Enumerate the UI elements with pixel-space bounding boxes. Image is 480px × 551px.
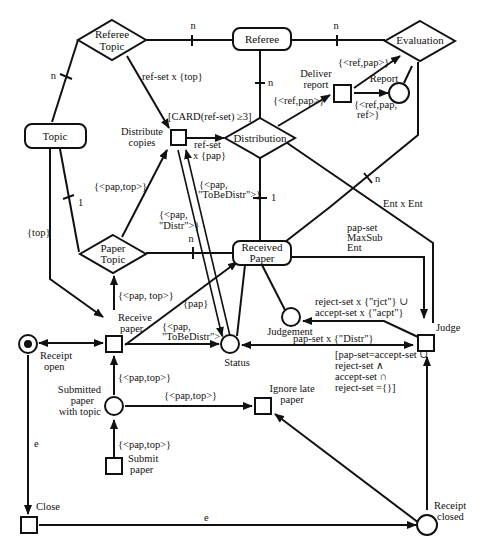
arc-label: Ent (347, 242, 362, 253)
node-label: Receive (118, 312, 152, 323)
transition-ignore-late-paper[interactable]: Ignore late paper (255, 383, 315, 414)
node-label: Report (370, 73, 399, 84)
arc-label: ref-set (194, 139, 221, 150)
edge-received-status (237, 265, 245, 336)
square-shape (334, 85, 351, 102)
place-status[interactable]: Status (221, 335, 250, 368)
edge-received-judgement (262, 265, 285, 310)
arc-label: {<pap,top>} (94, 181, 147, 192)
node-label: Referee (95, 28, 129, 40)
node-label: Distribute (121, 126, 163, 137)
token-icon (24, 340, 32, 348)
square-shape (21, 517, 37, 533)
arc-label: Ent x Ent (383, 198, 423, 209)
cardinality-label: n (51, 70, 57, 81)
node-label: Close (36, 501, 60, 512)
node-label: Receipt (434, 500, 466, 511)
node-label: Submit (128, 453, 158, 464)
relationship-distribution[interactable]: Distribution (225, 118, 295, 158)
cardinality-label: n (190, 20, 196, 31)
node-label: copies (129, 137, 156, 148)
circle-shape (105, 397, 123, 415)
transition-close[interactable]: Close (21, 501, 60, 533)
square-shape (255, 398, 271, 414)
guard-label: reject-set ∧ (335, 360, 384, 371)
relationship-paper-topic[interactable]: Paper Topic (80, 235, 146, 273)
edge-refereetopic-topic (52, 40, 78, 122)
edge-closed-ignore (275, 414, 419, 523)
edge-topic-papertopic (60, 149, 79, 252)
node-label: Judge (436, 322, 461, 333)
arc-label: x {pap} (193, 150, 226, 161)
node-label: Referee (245, 33, 279, 45)
node-label: Evaluation (396, 34, 444, 46)
edge-refereetopic-distribute (127, 56, 169, 128)
arc-label: e (204, 512, 209, 523)
cardinality-label: 1 (271, 192, 276, 203)
arc-label: {<pap,top>} (118, 372, 171, 383)
node-label: paper (71, 395, 95, 406)
node-label: Topic (43, 130, 68, 142)
cardinality-label: 1 (78, 197, 83, 208)
node-label: Topic (100, 40, 125, 52)
cardinality-label: n (268, 77, 274, 88)
square-shape (106, 458, 122, 474)
guard-label: accept-set ∩ (335, 371, 387, 382)
arc-label: {top} (27, 227, 51, 238)
arc-label: "Distr">} (159, 220, 200, 231)
node-label: Distribution (233, 132, 287, 144)
guard-label: [CARD(ref-set) ≥3] (168, 111, 252, 123)
circle-shape (417, 515, 437, 535)
edge-report-evaluation (404, 66, 412, 83)
arc-label: "ToBeDistr">} (162, 331, 225, 342)
arc-label: ref>} (357, 109, 380, 120)
node-label: Status (224, 357, 250, 368)
entity-topic[interactable]: Topic (25, 124, 86, 148)
arc-label: "ToBeDistr">} (198, 189, 261, 200)
arc-label: {<ref,pap>} (338, 57, 389, 68)
node-label: with topic (59, 406, 102, 417)
arc-label: {<pap, top>} (118, 290, 174, 301)
arc-label: {<ref,pap>} (273, 95, 324, 106)
transition-receive-paper[interactable]: Receive paper (106, 312, 152, 352)
node-label: Paper (249, 252, 274, 264)
node-label: Topic (101, 253, 126, 265)
relationship-evaluation[interactable]: Evaluation (385, 21, 455, 61)
arc-label: accept-set x {"acpt"} (315, 307, 404, 318)
arc-label: reject-set x {"rjct"} ∪ (315, 296, 408, 307)
cardinality-label: n (333, 20, 339, 31)
arc-label: {pap} (183, 298, 208, 309)
node-label: paper (280, 394, 304, 405)
node-label: paper (120, 323, 144, 334)
cardinality-label: n (375, 173, 381, 184)
arc-label: pap-set x {"Distr"} (293, 333, 373, 344)
transition-judge[interactable]: Judge (418, 322, 461, 351)
arc-label: {<pap,top>} (164, 390, 217, 401)
place-receipt-closed[interactable]: Receipt closed (417, 500, 466, 535)
circle-shape (282, 308, 300, 326)
relationship-referee-topic[interactable]: Referee Topic (78, 20, 146, 60)
node-label: report (303, 79, 328, 90)
arc-label: ref-set x {top} (142, 71, 203, 82)
node-label: closed (437, 511, 465, 522)
entity-received-paper[interactable]: Received Paper (233, 241, 291, 265)
square-shape (171, 130, 186, 145)
node-label: Deliver (300, 68, 332, 79)
guard-label: reject-set ={}] (335, 382, 396, 393)
arc-labels: ref-set x {top} [CARD(ref-set) ≥3] ref-s… (27, 57, 428, 523)
node-label: paper (130, 464, 154, 475)
arc-label: {<pap, (159, 209, 188, 220)
paper-review-net-diagram: Referee Topic Referee Evaluation Topic D… (0, 0, 480, 551)
node-label: open (44, 361, 65, 372)
entity-referee[interactable]: Referee (233, 28, 291, 50)
guard-label: [pap-set=accept-set ∪ (335, 349, 428, 360)
cardinality-label: n (188, 233, 194, 244)
square-shape (106, 336, 122, 352)
node-label: Receipt (40, 350, 72, 361)
place-receipt-open[interactable]: Receipt open (19, 335, 72, 372)
arc-label: {<pap,top>} (118, 439, 171, 450)
node-label: Ignore late (269, 383, 315, 394)
arc-label: e (34, 438, 39, 449)
transition-distribute-copies[interactable]: Distribute copies (121, 126, 186, 148)
node-label: Submitted (58, 384, 102, 395)
